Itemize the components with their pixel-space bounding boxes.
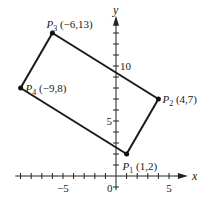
x-tick-label: 0 (107, 182, 113, 194)
x-tick-label: −5 (57, 182, 69, 194)
point-label-P1: P1 (1,2) (122, 160, 158, 175)
x-axis-label: x (191, 169, 198, 183)
tick-labels: −505510 (57, 60, 172, 194)
y-tick-label: 5 (107, 115, 113, 127)
x-axis-arrow (178, 173, 188, 179)
point-label-P2: P2 (4,7) (161, 93, 197, 108)
edge-P3-P4 (21, 33, 53, 88)
point-P1 (124, 152, 129, 157)
y-axis-label: y (112, 3, 119, 17)
coordinate-plot: −505510 P1 (1,2)P2 (4,7)P3 (−6,13)P4 (−9… (0, 0, 207, 213)
point-P4 (18, 86, 23, 91)
point-label-P3: P3 (−6,13) (45, 18, 93, 33)
x-tick-label: 5 (166, 182, 172, 194)
point-labels: P1 (1,2)P2 (4,7)P3 (−6,13)P4 (−9,8) (25, 18, 198, 175)
edge-P2-P3 (52, 33, 158, 99)
point-P2 (156, 97, 161, 102)
y-tick-label: 10 (120, 60, 132, 72)
edge-P1-P2 (127, 99, 159, 154)
y-axis-arrow (113, 16, 119, 26)
